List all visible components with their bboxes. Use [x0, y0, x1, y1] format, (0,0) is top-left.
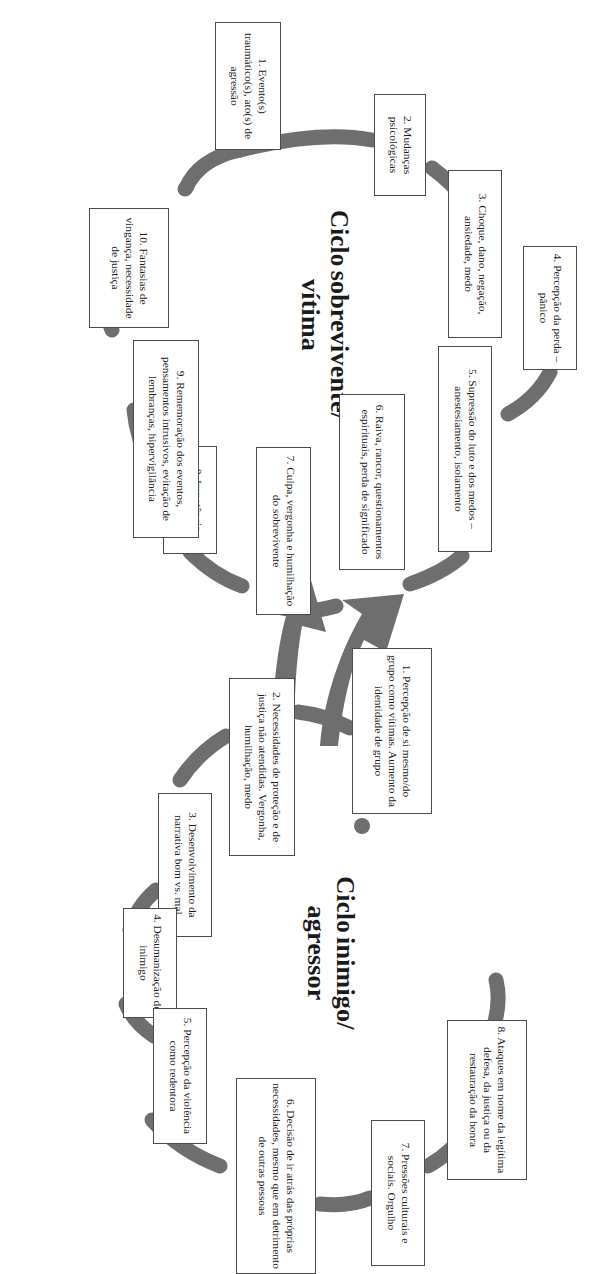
cycle-step-box[interactable]: 3. Choque, dano, negação, ansiedade, med… [448, 170, 502, 338]
cycle-title-enemy: Ciclo inimigo/ agressor [302, 828, 360, 1078]
cycle-step-box[interactable]: 6. Decisão de ir atrás das próprias nece… [236, 1078, 316, 1274]
cycle-step-box[interactable]: 5. Percepção da violência como redentora [153, 1008, 207, 1144]
cycle-step-box[interactable]: 4. Desumanização do inimigo [123, 908, 177, 1018]
cycle-step-box[interactable]: 1. Percepção de si mesmo/do grupo como v… [352, 648, 432, 814]
cycle-step-box[interactable]: 7. Pressões culturais e sociais. Orgulho [371, 1120, 425, 1266]
cycle-step-box[interactable]: 6. Raiva, rancor, questionamentos espiri… [339, 394, 405, 570]
cycle-step-box[interactable]: 2. Mudanças psicológicas [374, 94, 426, 196]
cycle-step-box[interactable]: 7. Culpa, vergonha e humilhação do sobre… [256, 447, 311, 615]
cycle-step-box[interactable]: 1. Evento(s) traumático(s), ato(s) de ag… [215, 22, 281, 150]
cycle-step-box[interactable]: 4. Percepção da perda – pânico [523, 246, 577, 370]
cycle-step-box[interactable]: 9. Rememoração dos eventos, pensamentos … [133, 340, 199, 538]
cycle-step-box[interactable]: 2. Necessidades de proteção e de justiça… [229, 678, 295, 856]
cycle-step-box[interactable]: 10. Fantasias de vingança, necessidade d… [89, 208, 169, 328]
cycle-step-box[interactable]: 8. Ataques em nome da legítima defesa, d… [447, 1020, 527, 1180]
cycle-step-box[interactable]: 5. Supressão do luto e dos medos – anest… [438, 346, 492, 552]
cycle-survivor-victim: Ciclo sobrevivente/ vítima 1. Evento(s) … [0, 0, 612, 628]
